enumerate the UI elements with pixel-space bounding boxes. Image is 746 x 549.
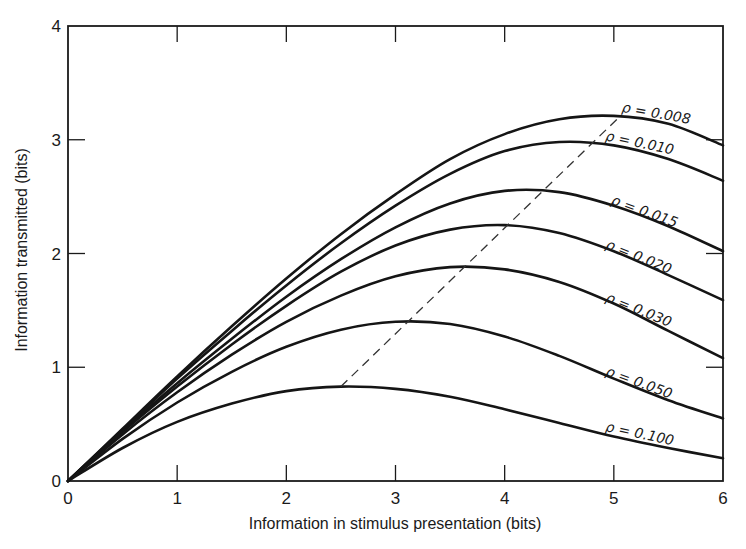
curve-label-rho-0-020: ρ = 0.020	[604, 236, 675, 277]
x-tick-label: 1	[172, 489, 181, 508]
y-tick-label: 0	[52, 472, 61, 491]
x-tick-label: 3	[391, 489, 400, 508]
y-tick-label: 3	[52, 131, 61, 150]
chart-canvas: 012345601234 ρ = 0.008ρ = 0.010ρ = 0.015…	[0, 0, 746, 549]
x-tick-label: 4	[500, 489, 509, 508]
curve-label-rho-0-100: ρ = 0.100	[604, 418, 675, 448]
x-tick-label: 5	[609, 489, 618, 508]
curve-label-rho-0-008: ρ = 0.008	[621, 99, 692, 127]
x-tick-label: 0	[63, 489, 72, 508]
y-tick-label: 2	[52, 245, 61, 264]
y-tick-label: 4	[52, 17, 61, 36]
curve-labels: ρ = 0.008ρ = 0.010ρ = 0.015ρ = 0.020ρ = …	[604, 99, 692, 448]
curve-rho-0-020	[68, 225, 723, 481]
x-axis-title: Information in stimulus presentation (bi…	[249, 515, 542, 532]
curve-label-rho-0-010: ρ = 0.010	[604, 127, 675, 157]
curve-label-rho-0-015: ρ = 0.015	[609, 192, 680, 231]
curve-label-rho-0-030: ρ = 0.030	[604, 289, 675, 330]
y-tick-label: 1	[52, 358, 61, 377]
x-tick-label: 6	[718, 489, 727, 508]
curve-label-rho-0-050: ρ = 0.050	[604, 363, 675, 402]
x-tick-label: 2	[282, 489, 291, 508]
y-axis-title: Information transmitted (bits)	[13, 148, 30, 352]
